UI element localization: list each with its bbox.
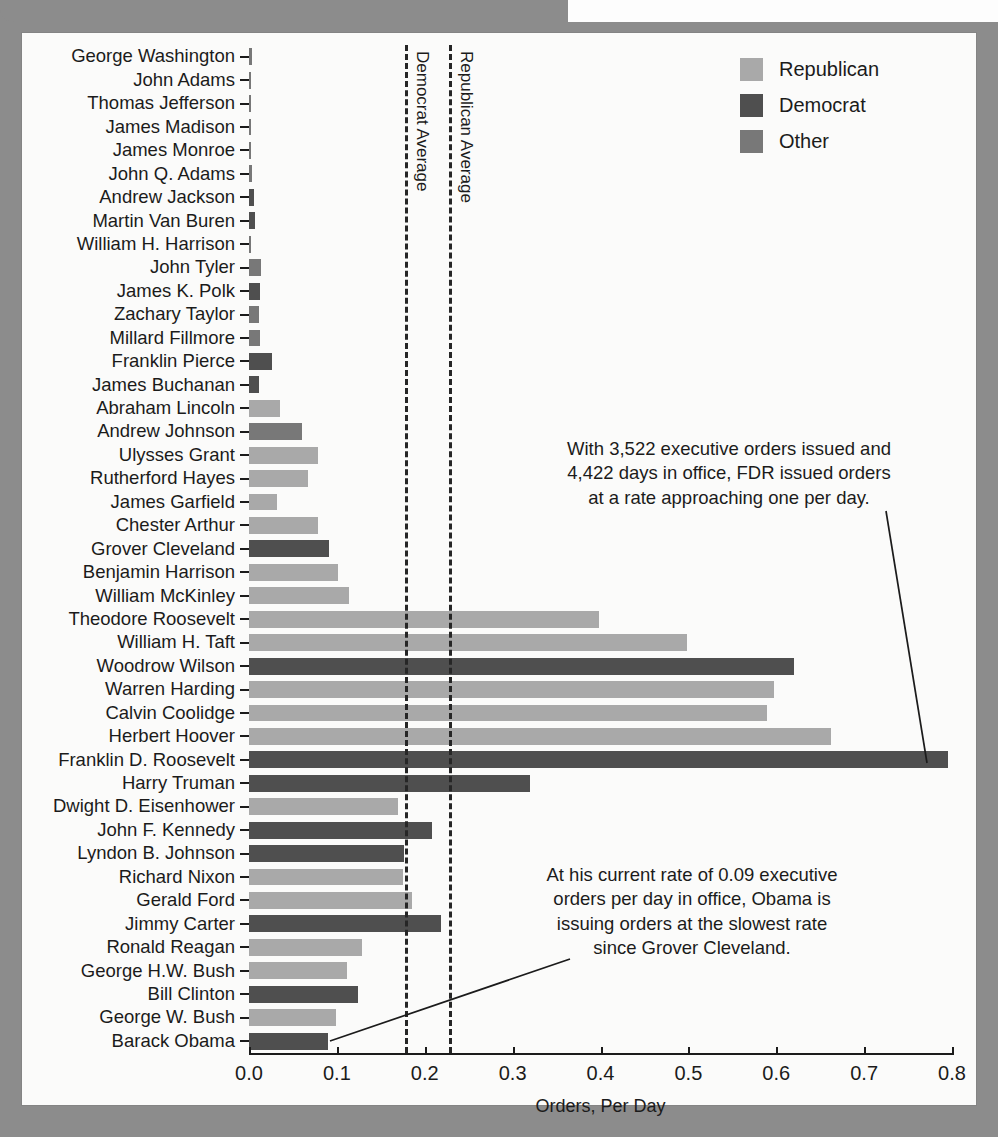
y-axis-tick-label: Millard Fillmore (110, 329, 235, 348)
x-axis-tick-label: 0.8 (938, 1062, 966, 1085)
y-axis-tick (240, 314, 249, 316)
bar[interactable] (249, 283, 260, 300)
bar[interactable] (249, 540, 329, 557)
y-axis-tick (240, 853, 249, 855)
bar[interactable] (249, 306, 259, 323)
y-axis-tick (240, 454, 249, 456)
y-axis-tick-label: James K. Polk (117, 282, 235, 301)
y-axis-tick (240, 267, 249, 269)
legend-item-rep[interactable]: Republican (740, 58, 879, 81)
bar[interactable] (249, 517, 318, 534)
bar[interactable] (249, 728, 831, 745)
bar[interactable] (249, 376, 259, 393)
bar[interactable] (249, 775, 530, 792)
bar[interactable] (249, 681, 774, 698)
y-axis-tick (240, 548, 249, 550)
bar-row: Chester Arthur (249, 514, 952, 537)
bar[interactable] (249, 72, 251, 89)
bar[interactable] (249, 634, 687, 651)
y-axis-tick-label: Rutherford Hayes (90, 469, 235, 488)
bar[interactable] (249, 447, 318, 464)
y-axis-tick-label: Chester Arthur (116, 516, 235, 535)
bar[interactable] (249, 330, 260, 347)
y-axis-tick (240, 220, 249, 222)
bar[interactable] (249, 751, 948, 768)
bar[interactable] (249, 119, 251, 136)
bar[interactable] (249, 95, 251, 112)
y-axis-tick (240, 899, 249, 901)
bar[interactable] (249, 915, 441, 932)
bar[interactable] (249, 165, 252, 182)
y-axis-tick-label: Franklin D. Roosevelt (58, 751, 235, 770)
y-axis-tick-label: James Garfield (111, 493, 235, 512)
bar[interactable] (249, 705, 767, 722)
y-axis-tick-label: Theodore Roosevelt (68, 610, 235, 629)
average-line-label: Republican Average (456, 51, 476, 203)
bar[interactable] (249, 658, 794, 675)
bar[interactable] (249, 845, 404, 862)
y-axis-tick-label: Grover Cleveland (91, 540, 235, 559)
bar[interactable] (249, 259, 261, 276)
average-line-republican (449, 45, 452, 1053)
bar[interactable] (249, 1033, 328, 1050)
x-axis-tick (776, 1047, 778, 1055)
bar-row: Millard Fillmore (249, 326, 952, 349)
bar-row: Martin Van Buren (249, 209, 952, 232)
bar-row: William H. Taft (249, 631, 952, 654)
annotation-line: orders per day in office, Obama is (512, 887, 872, 911)
bar-row: Harry Truman (249, 772, 952, 795)
y-axis-tick-label: Franklin Pierce (112, 352, 235, 371)
x-axis-label: Orders, Per Day (249, 1096, 952, 1117)
bar[interactable] (249, 494, 277, 511)
y-axis-tick (240, 290, 249, 292)
bar[interactable] (249, 611, 599, 628)
bar[interactable] (249, 212, 255, 229)
y-axis-tick-label: Ronald Reagan (106, 938, 235, 957)
y-axis-tick (240, 876, 249, 878)
bar[interactable] (249, 353, 272, 370)
bar[interactable] (249, 236, 251, 253)
legend-item-dem[interactable]: Democrat (740, 94, 879, 117)
y-axis-tick (240, 103, 249, 105)
bar[interactable] (249, 142, 251, 159)
chart-page: George WashingtonJohn AdamsThomas Jeffer… (0, 0, 998, 1137)
page-top-notch (0, 0, 998, 22)
bar[interactable] (249, 869, 403, 886)
x-axis-tick-label: 0.3 (499, 1062, 527, 1085)
bar-row: Dwight D. Eisenhower (249, 795, 952, 818)
y-axis-tick-label: Benjamin Harrison (83, 563, 235, 582)
bar[interactable] (249, 1009, 336, 1026)
bar[interactable] (249, 587, 349, 604)
y-axis-tick (240, 642, 249, 644)
bar-row: John F. Kennedy (249, 818, 952, 841)
y-axis-tick (240, 407, 249, 409)
bar[interactable] (249, 189, 254, 206)
bar[interactable] (249, 798, 398, 815)
bar[interactable] (249, 564, 338, 581)
y-axis-tick (240, 689, 249, 691)
bar-row: Lyndon B. Johnson (249, 842, 952, 865)
y-axis-tick-label: Thomas Jefferson (87, 94, 235, 113)
legend-swatch-icon (740, 130, 763, 153)
bar-row: George H.W. Bush (249, 959, 952, 982)
bar-row: Herbert Hoover (249, 725, 952, 748)
bar[interactable] (249, 470, 308, 487)
x-axis-tick (601, 1047, 603, 1055)
y-axis-tick-label: Barack Obama (112, 1032, 235, 1051)
legend-item-other[interactable]: Other (740, 130, 879, 153)
y-axis-tick (240, 759, 249, 761)
bar[interactable] (249, 48, 252, 65)
y-axis-tick (240, 1040, 249, 1042)
bar-row: James K. Polk (249, 279, 952, 302)
bar[interactable] (249, 423, 302, 440)
y-axis-tick (240, 946, 249, 948)
bar[interactable] (249, 939, 362, 956)
bar[interactable] (249, 962, 347, 979)
bar[interactable] (249, 892, 412, 909)
y-axis-tick (240, 56, 249, 58)
chart-card: George WashingtonJohn AdamsThomas Jeffer… (22, 33, 976, 1105)
bar[interactable] (249, 400, 280, 417)
bar[interactable] (249, 986, 358, 1003)
y-axis-tick (240, 735, 249, 737)
y-axis-tick (240, 149, 249, 151)
